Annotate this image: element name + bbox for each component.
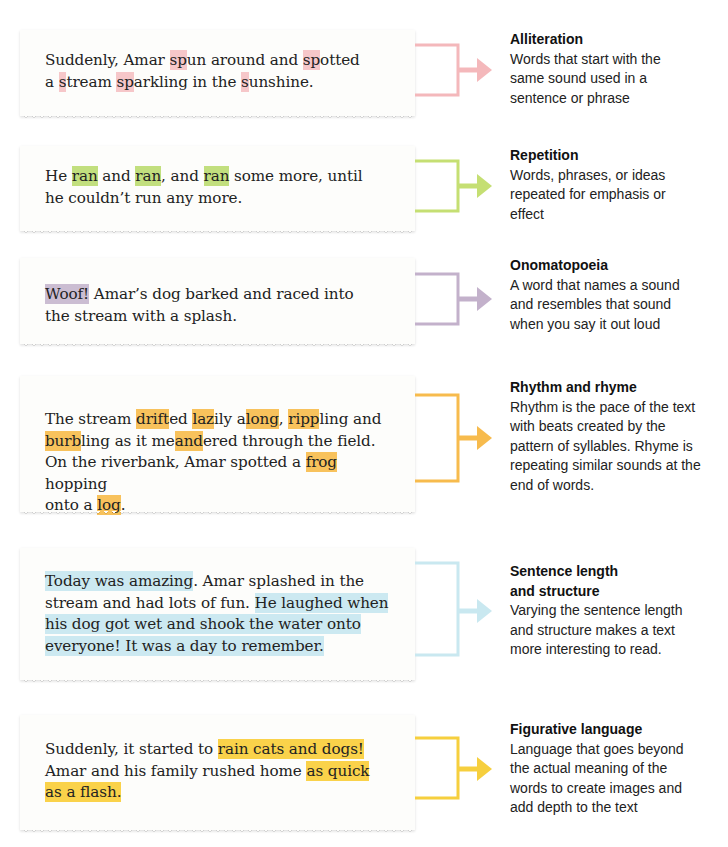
passage-text: The stream drifted lazily along, ripplin… [45,409,403,517]
highlighted-text: long [246,409,279,429]
device-title: Onomatopoeia [510,256,725,276]
passage-segment: unshine. [249,73,314,91]
device-title-line: and structure [510,583,599,599]
passage-segment: onto a [45,496,97,514]
passage-segment: , and [161,167,203,185]
highlighted-text: rain cats and dogs! [218,739,364,759]
highlighted-text: his dog got wet and shook the water onto [45,614,361,634]
passage-segment: un around and [187,51,303,69]
passage-segment: arkling in the [134,73,241,91]
passage-text: He ran and ran, and ran some more, until… [45,166,403,209]
device-description-rhythm-and-rhyme: Rhythm and rhyme Rhythm is the pace of t… [510,378,725,495]
passage-segment: , [279,410,288,428]
highlighted-text: s [241,72,249,92]
highlighted-text: and [175,431,203,451]
passage-card-alliteration: Suddenly, Amar spun around and spotteda … [20,30,415,116]
passage-segment: he couldn’t run any more. [45,189,242,207]
passage-segment: ily a [214,410,246,428]
passage-text: Suddenly, it started to rain cats and do… [45,739,403,804]
bracket-arrow-icon [415,159,505,219]
passage-card-figurative-language: Suddenly, it started to rain cats and do… [20,715,415,830]
device-description-sentence-structure: Sentence length and structure Varying th… [510,562,725,660]
device-description-repetition: Repetition Words, phrases, or ideas repe… [510,146,725,224]
bracket-arrow-svg [415,159,505,219]
passage-segment: . [121,496,126,514]
passage-segment: Suddenly, Amar [45,51,170,69]
passage-segment: Amar and his family rushed home [45,762,306,780]
passage-segment: some more, until [229,167,362,185]
device-title-line: Sentence length [510,563,618,579]
passage-card-onomatopoeia: Woof! Amar’s dog barked and raced intoth… [20,258,415,344]
bracket-arrow-icon [415,43,505,103]
highlighted-text: ran [72,166,98,186]
passage-segment: the stream with a splash. [45,307,237,325]
device-description-onomatopoeia: Onomatopoeia A word that names a sound a… [510,256,725,334]
highlighted-text: ran [135,166,161,186]
device-description-figurative-language: Figurative language Language that goes b… [510,720,725,818]
highlighted-text: as quick [306,761,369,781]
highlighted-text: laz [192,409,214,429]
passage-segment: . Amar splashed in the [193,572,364,590]
passage-text: Suddenly, Amar spun around and spotteda … [45,50,403,93]
passage-segment: The stream [45,410,136,428]
device-definition: Rhythm is the pace of the text with beat… [510,398,710,496]
bracket-arrow-icon [415,736,505,802]
passage-segment: He [45,167,72,185]
highlighted-text: frog [306,452,337,472]
passage-segment: a [45,73,59,91]
passage-card-repetition: He ran and ran, and ran some more, until… [20,146,415,231]
device-description-alliteration: Alliteration Words that start with the s… [510,30,725,108]
passage-card-sentence-structure: Today was amazing. Amar splashed in thes… [20,548,415,680]
device-definition: Words that start with the same sound use… [510,50,680,109]
passage-card-rhythm-and-rhyme: The stream drifted lazily along, ripplin… [20,376,415,512]
device-title: Repetition [510,146,725,166]
bracket-arrow-svg [415,393,505,485]
passage-text: Today was amazing. Amar splashed in thes… [45,571,403,657]
passage-segment: stream and had lots of fun. [45,594,255,612]
device-title: Sentence length and structure [510,562,725,601]
passage-segment: tream [66,73,116,91]
highlighted-text: as a flash. [45,782,121,802]
highlighted-text: Today was amazing [45,571,193,591]
passage-segment: ered through the field. [203,432,375,450]
device-definition: Words, phrases, or ideas repeated for em… [510,166,675,225]
highlighted-text: everyone! It was a day to remember. [45,636,324,656]
bracket-arrow-svg [415,561,505,659]
highlighted-text: sp [116,72,133,92]
passage-text: Woof! Amar’s dog barked and raced intoth… [45,284,403,327]
highlighted-text: sp [170,50,187,70]
bracket-arrow-icon [415,272,505,332]
highlighted-text: burb [45,431,81,451]
highlighted-text: sp [303,50,320,70]
bracket-arrow-icon [415,393,505,485]
passage-segment: and [98,167,136,185]
passage-segment: otted [320,51,360,69]
passage-segment: Amar’s dog barked and raced into [89,285,353,303]
device-title: Alliteration [510,30,725,50]
device-definition: Language that goes beyond the actual mea… [510,740,700,818]
passage-segment: ling and [319,410,381,428]
passage-segment: ed [169,410,192,428]
device-title: Rhythm and rhyme [510,378,725,398]
highlighted-text: ran [204,166,230,186]
bracket-arrow-icon [415,561,505,659]
bracket-arrow-svg [415,272,505,332]
device-definition: A word that names a sound and resembles … [510,276,705,335]
highlighted-text: drift [136,409,169,429]
passage-segment: hopping [45,475,107,493]
highlighted-text: He laughed when [255,593,389,613]
device-title: Figurative language [510,720,725,740]
passage-segment: On the riverbank, Amar spotted a [45,453,306,471]
bracket-arrow-svg [415,736,505,802]
device-definition: Varying the sentence length and structur… [510,601,700,660]
highlighted-text: ripp [288,409,319,429]
highlighted-text: log [97,495,120,515]
bracket-arrow-svg [415,43,505,103]
highlighted-text: Woof! [45,284,89,304]
passage-segment: Suddenly, it started to [45,740,218,758]
passage-segment: ling as it me [81,432,175,450]
